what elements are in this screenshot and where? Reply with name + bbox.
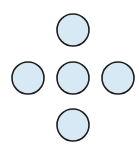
circle-node-right bbox=[102, 62, 134, 94]
diagram-canvas bbox=[0, 0, 139, 153]
circles-diagram bbox=[0, 0, 139, 153]
circle-node-center bbox=[57, 62, 89, 94]
circle-node-top bbox=[57, 14, 89, 46]
circle-node-left bbox=[12, 62, 44, 94]
circle-node-bottom bbox=[57, 109, 89, 141]
